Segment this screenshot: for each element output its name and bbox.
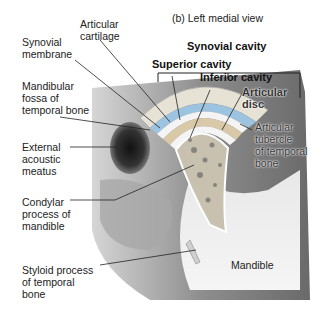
label-superior-cavity: Superior cavity xyxy=(152,58,231,70)
label-articular-disc: Articular disc xyxy=(242,86,287,110)
label-synovial-cavity: Synovial cavity xyxy=(187,40,267,52)
label-articular-cartilage: Articular cartilage xyxy=(80,18,120,42)
label-synovial-membrane: Synovial membrane xyxy=(22,36,72,60)
figure-title: (b) Left medial view xyxy=(172,12,263,24)
label-mandibular-fossa: Mandibular fossa of temporal bone xyxy=(22,80,89,116)
label-mandible: Mandible xyxy=(231,259,274,271)
label-styloid-process: Styloid process of temporal bone xyxy=(22,264,93,300)
label-inferior-cavity: Inferior cavity xyxy=(200,71,272,83)
label-condylar-process: Condylar process of mandible xyxy=(22,196,70,232)
meatus-shape xyxy=(110,122,150,174)
label-external-acoustic-meatus: External acoustic meatus xyxy=(22,141,61,177)
tmj-diagram: (b) Left medial view Articular cartilage… xyxy=(0,0,327,310)
label-articular-tubercle: Articular tubercle of temporal bone xyxy=(255,121,308,169)
